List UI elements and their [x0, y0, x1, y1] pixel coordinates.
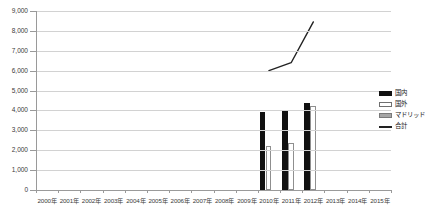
gridline	[36, 150, 391, 151]
x-axis-tick	[169, 190, 170, 193]
x-axis-tick-label: 2014年	[347, 196, 369, 205]
x-axis-tick-label: 2002年	[80, 196, 102, 205]
gridline	[36, 71, 391, 72]
x-axis-tick-label: 2006年	[169, 196, 191, 205]
y-axis-tick-label: 5,000	[0, 87, 28, 94]
x-axis-tick-label: 2010年	[258, 196, 280, 205]
x-axis-tick	[147, 190, 148, 193]
x-axis-tick	[391, 190, 392, 193]
gridline	[36, 31, 391, 32]
x-axis-tick-label: 2000年	[36, 196, 58, 205]
x-axis-tick	[347, 190, 348, 193]
legend-item-0[interactable]: 国内	[379, 88, 443, 99]
x-axis-tick	[214, 190, 215, 193]
x-axis-tick-label: 2001年	[58, 196, 80, 205]
x-axis-tick-label: 2008年	[214, 196, 236, 205]
gridline	[36, 51, 391, 52]
legend-item-label: マドリッド	[395, 112, 425, 118]
chart-legend: 国内国外マドリッド合計	[379, 88, 443, 132]
bar-overseas	[266, 146, 271, 190]
legend-item-3[interactable]: 合計	[379, 121, 443, 132]
legend-item-label: 合計	[395, 123, 407, 129]
y-axis-tick-label: 1,000	[0, 166, 28, 173]
bar-domestic	[304, 103, 309, 191]
y-axis-tick-label: 4,000	[0, 106, 28, 113]
y-axis-tick-label: 9,000	[0, 7, 28, 14]
total-line-series	[36, 11, 391, 190]
legend-item-label: 国外	[395, 101, 407, 107]
x-axis-tick	[280, 190, 281, 193]
x-axis-tick	[324, 190, 325, 193]
gridline	[36, 170, 391, 171]
bar-overseas	[310, 106, 315, 190]
x-axis-tick-label: 2007年	[191, 196, 213, 205]
legend-item-2[interactable]: マドリッド	[379, 110, 443, 121]
x-axis-tick	[369, 190, 370, 193]
x-axis-tick-label: 2003年	[103, 196, 125, 205]
chart-container: 9,0008,0007,0006,0005,0004,0003,0002,000…	[0, 0, 444, 215]
legend-item-label: 国内	[395, 90, 407, 96]
x-axis-tick	[125, 190, 126, 193]
gridline	[36, 11, 391, 12]
x-axis-tick-label: 2011年	[280, 196, 302, 205]
gridline	[36, 110, 391, 111]
y-axis-tick-label: 6,000	[0, 67, 28, 74]
x-axis-tick	[58, 190, 59, 193]
plot-area	[36, 11, 391, 190]
filled-gray-swatch-icon	[379, 113, 392, 118]
x-axis-tick	[258, 190, 259, 193]
line-swatch-icon	[379, 124, 392, 129]
x-axis-tick-label: 2013年	[324, 196, 346, 205]
x-axis-tick	[103, 190, 104, 193]
y-axis-tick-label: 7,000	[0, 47, 28, 54]
x-axis-tick	[236, 190, 237, 193]
y-axis-line	[36, 11, 37, 191]
total-line-path	[269, 22, 313, 71]
x-axis-tick	[302, 190, 303, 193]
bar-domestic	[260, 112, 265, 190]
x-axis-tick	[80, 190, 81, 193]
x-axis-tick-label: 2005年	[147, 196, 169, 205]
x-axis-tick-label: 2004年	[125, 196, 147, 205]
y-axis-tick-label: 2,000	[0, 146, 28, 153]
x-axis-tick	[36, 190, 37, 193]
y-axis-tick-label: 8,000	[0, 27, 28, 34]
y-axis-tick-label: 0	[0, 186, 28, 193]
y-axis-tick-label: 3,000	[0, 126, 28, 133]
x-axis-tick-label: 2012年	[302, 196, 324, 205]
x-axis-tick-label: 2015年	[369, 196, 391, 205]
filled-black-swatch-icon	[379, 91, 392, 96]
legend-item-1[interactable]: 国外	[379, 99, 443, 110]
outline-white-swatch-icon	[379, 102, 392, 107]
x-axis-tick	[191, 190, 192, 193]
gridline	[36, 91, 391, 92]
gridline	[36, 130, 391, 131]
x-axis-tick-label: 2009年	[236, 196, 258, 205]
